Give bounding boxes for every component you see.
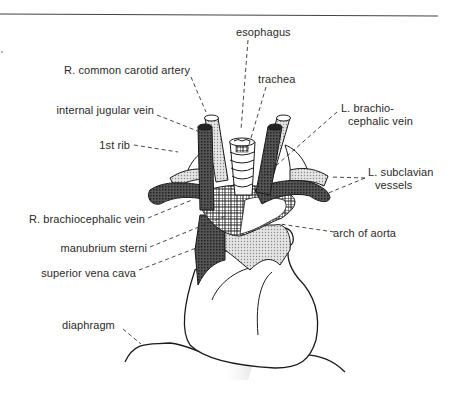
label-l-subclavian-vessels-line1: L. subclavian (368, 166, 434, 178)
label-trachea: trachea (258, 73, 295, 85)
top-rule (0, 14, 438, 16)
label-r-common-carotid-artery: R. common carotid artery (58, 64, 190, 76)
label-manubrium-sterni: manubrium sterni (40, 242, 147, 254)
label-esophagus: esophagus (236, 26, 291, 38)
label-l-brachiocephalic-vein-line2: cephalic vein (348, 115, 413, 127)
stray-dot (1, 51, 3, 53)
label-arch-of-aorta: arch of aorta (333, 227, 396, 239)
label-l-subclavian-vessels-line2: vessels (375, 179, 412, 191)
r-carotid-opening (205, 115, 219, 121)
l-jugular-opening (268, 124, 282, 130)
label-r-brachiocephalic-vein: R. brachiocephalic vein (10, 213, 145, 225)
r-internal-jugular-vein (198, 127, 214, 210)
label-l-brachiocephalic-vein-line1: L. brachio- (341, 102, 394, 114)
label-diaphragm: diaphragm (62, 319, 115, 331)
l-carotid-opening (277, 115, 291, 121)
anatomy-diagram (0, 0, 458, 399)
r-jugular-opening (198, 124, 212, 130)
label-internal-jugular-vein: internal jugular vein (40, 104, 154, 116)
label-1st-rib: 1st rib (90, 139, 130, 151)
label-superior-vena-cava: superior vena cava (20, 267, 136, 279)
